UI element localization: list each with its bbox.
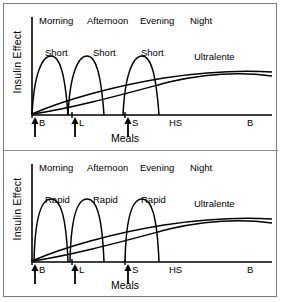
- meal-arrow-l-top: [71, 117, 78, 137]
- rapid-acting-panel: Insulin Effect Morning Afternoon Evening…: [4, 151, 278, 298]
- x-tick-label-b2-top: B: [247, 117, 253, 128]
- rapid-acting-plot: [4, 151, 278, 298]
- x-tick-label-s-bottom: S: [132, 264, 138, 275]
- x-tick-label-l-top: L: [79, 117, 84, 128]
- x-tick-label-hs-top: HS: [169, 117, 182, 128]
- meal-arrow-b-bottom: [31, 264, 38, 284]
- meal-arrow-b-top: [31, 117, 38, 137]
- x-tick-label-hs-bottom: HS: [169, 264, 182, 275]
- short-acting-panel: Insulin Effect Morning Afternoon Evening…: [4, 4, 278, 151]
- x-tick-label-b2-bottom: B: [247, 264, 253, 275]
- figure-frame: Insulin Effect Morning Afternoon Evening…: [3, 3, 277, 297]
- x-tick-label-l-bottom: L: [79, 264, 84, 275]
- x-tick-label-b1-bottom: B: [39, 264, 45, 275]
- x-tick-label-s-top: S: [132, 117, 138, 128]
- x-tick-label-b1-top: B: [39, 117, 45, 128]
- x-axis-label-top: Meals: [90, 132, 160, 144]
- x-axis-label-bottom: Meals: [90, 279, 160, 291]
- bolus-curve-3-bottom: [125, 199, 159, 262]
- bolus-curve-1-bottom: [34, 199, 68, 262]
- short-acting-plot: [4, 4, 278, 151]
- meal-arrow-l-bottom: [71, 264, 78, 284]
